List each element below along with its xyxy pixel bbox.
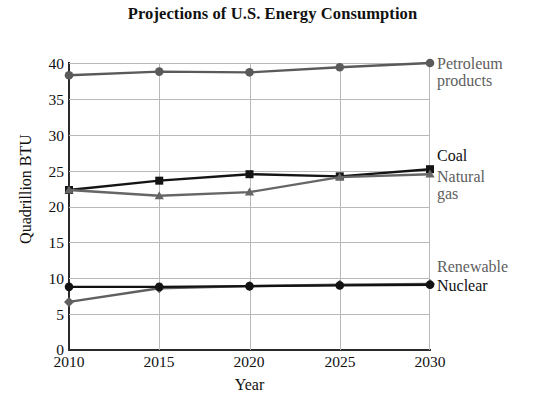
series-label-petroleum: Petroleum products <box>437 55 503 89</box>
data-point <box>426 280 435 289</box>
y-axis-title: Quadrillion BTU <box>17 99 35 279</box>
data-point <box>245 68 254 77</box>
data-point <box>246 170 254 178</box>
data-point <box>426 59 435 68</box>
x-axis-title: Year <box>69 376 430 394</box>
series-label-nuclear: Nuclear <box>437 277 488 294</box>
x-tick-2015: 2015 <box>129 353 189 371</box>
energy-consumption-chart: Projections of U.S. Energy Consumption 4… <box>0 0 545 409</box>
series-layer <box>69 63 430 350</box>
x-tick-2030: 2030 <box>400 353 460 371</box>
data-point <box>155 67 164 76</box>
x-tick-2025: 2025 <box>310 353 370 371</box>
data-point <box>155 177 163 185</box>
data-point <box>64 297 74 307</box>
y-tick-10: 10 <box>30 270 64 288</box>
y-tick-25: 25 <box>30 163 64 181</box>
y-tick-30: 30 <box>30 127 64 145</box>
x-tick-2020: 2020 <box>219 353 279 371</box>
y-tick-5: 5 <box>30 306 64 324</box>
data-point <box>65 71 74 80</box>
data-point <box>65 283 74 292</box>
plot-area <box>69 63 430 350</box>
y-tick-15: 15 <box>30 234 64 252</box>
y-tick-35: 35 <box>30 91 64 109</box>
data-point <box>335 281 344 290</box>
page-title: Projections of U.S. Energy Consumption <box>0 4 545 24</box>
data-point <box>155 283 164 292</box>
y-tick-20: 20 <box>30 198 64 216</box>
y-tick-40: 40 <box>30 55 64 73</box>
x-tick-2010: 2010 <box>39 353 99 371</box>
series-label-coal: Coal <box>437 147 467 164</box>
data-point <box>245 282 254 291</box>
data-point <box>335 63 344 72</box>
series-label-renewable: Renewable <box>437 258 508 275</box>
series-label-natural-gas: Natural gas <box>437 168 485 202</box>
